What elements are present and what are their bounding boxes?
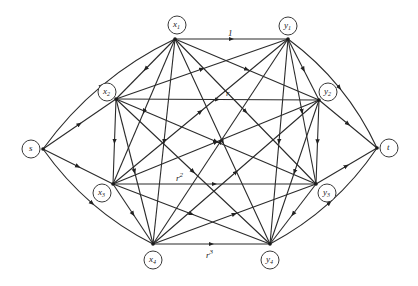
node-label: s: [29, 143, 33, 153]
edge-y1-y2: [288, 39, 319, 100]
edge-y1-y4: [270, 39, 288, 244]
edge-y3-t: [316, 148, 377, 184]
network-diagram: sx1x2x3x4y1y2y3y4t 1rr2r3: [0, 0, 418, 286]
node-x2: x2: [98, 83, 118, 101]
node-y1: y1: [279, 17, 297, 41]
node-x3: x3: [93, 182, 115, 202]
edge-x2-x4: [116, 99, 153, 244]
edge-x3-x4: [113, 184, 153, 244]
vertex-dot: [41, 147, 45, 151]
edge-x4-y3: [153, 184, 316, 244]
edge-label-2: r2: [176, 171, 184, 183]
node-y3: y3: [314, 182, 336, 202]
edge-x1-x2: [116, 39, 175, 99]
edge-x1-y2: [175, 39, 319, 100]
node-x1: x1: [168, 16, 186, 41]
node-s: s: [22, 140, 45, 158]
edge-x2-y2: [116, 99, 319, 100]
node-t: t: [375, 139, 398, 157]
vertex-dot: [268, 242, 272, 246]
vertex-dot: [317, 98, 321, 102]
edge-y2-t: [319, 100, 377, 148]
edge-layer: [43, 39, 377, 244]
node-y4: y4: [261, 242, 279, 269]
edge-label-1: r: [226, 88, 230, 98]
vertex-dot: [314, 182, 318, 186]
edge-x3-y1: [113, 39, 288, 184]
vertex-dot: [111, 182, 115, 186]
edge-x2-y1: [116, 39, 288, 99]
edge-label-3: r3: [206, 248, 214, 260]
edge-label-0: 1: [228, 28, 233, 38]
node-y2: y2: [317, 83, 337, 102]
edge-x2-x3: [113, 99, 116, 184]
edge-s-x3: [43, 149, 113, 184]
vertex-dot: [173, 37, 177, 41]
edge-x1-x4: [153, 39, 175, 244]
vertex-dot: [375, 146, 379, 150]
node-x4: x4: [144, 242, 162, 269]
edge-y2-y3: [316, 100, 319, 184]
edge-x1-y3: [175, 39, 316, 184]
vertex-dot: [151, 242, 155, 246]
vertex-dot: [114, 97, 118, 101]
edge-x4-y1: [153, 39, 288, 244]
vertex-dot: [286, 37, 290, 41]
